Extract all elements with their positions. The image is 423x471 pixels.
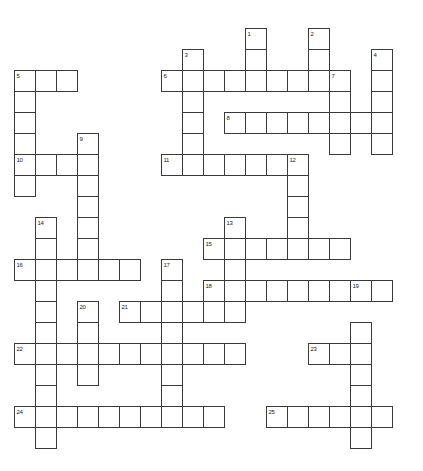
crossword-cell[interactable] [266,280,288,302]
crossword-cell[interactable] [182,154,204,176]
crossword-cell[interactable] [35,427,57,449]
crossword-cell[interactable] [35,385,57,407]
crossword-cell[interactable] [287,175,309,197]
crossword-cell[interactable] [35,70,57,92]
crossword-cell[interactable] [56,259,78,281]
crossword-cell[interactable] [245,154,267,176]
crossword-cell[interactable] [161,406,183,428]
crossword-cell[interactable] [119,343,141,365]
crossword-cell[interactable] [77,343,99,365]
crossword-cell[interactable] [245,70,267,92]
crossword-cell[interactable] [350,322,372,344]
crossword-cell[interactable] [329,133,351,155]
crossword-cell[interactable] [182,112,204,134]
crossword-cell[interactable] [350,364,372,386]
crossword-cell[interactable] [350,112,372,134]
crossword-cell[interactable] [371,91,393,113]
crossword-cell[interactable] [266,112,288,134]
crossword-cell[interactable] [329,343,351,365]
crossword-cell[interactable] [287,112,309,134]
crossword-cell[interactable] [203,406,225,428]
crossword-cell[interactable] [371,70,393,92]
crossword-cell[interactable] [182,301,204,323]
crossword-cell[interactable] [329,406,351,428]
crossword-cell[interactable] [77,238,99,260]
crossword-cell[interactable] [287,406,309,428]
crossword-cell[interactable] [35,280,57,302]
crossword-cell[interactable] [203,343,225,365]
crossword-cell[interactable] [329,112,351,134]
crossword-cell[interactable] [350,343,372,365]
crossword-cell[interactable] [98,343,120,365]
crossword-cell[interactable] [35,322,57,344]
crossword-cell[interactable] [161,280,183,302]
crossword-cell[interactable] [140,343,162,365]
crossword-cell[interactable] [329,91,351,113]
crossword-cell[interactable] [14,175,36,197]
crossword-cell[interactable] [224,154,246,176]
crossword-cell[interactable] [350,427,372,449]
crossword-cell[interactable] [329,280,351,302]
crossword-cell[interactable] [224,70,246,92]
crossword-cell[interactable] [308,280,330,302]
crossword-cell[interactable] [35,343,57,365]
crossword-cell[interactable] [161,301,183,323]
crossword-cell[interactable] [245,280,267,302]
crossword-cell[interactable] [203,70,225,92]
crossword-cell[interactable] [329,238,351,260]
crossword-cell[interactable] [35,406,57,428]
crossword-cell[interactable] [224,280,246,302]
crossword-cell[interactable] [203,301,225,323]
crossword-cell[interactable] [245,238,267,260]
crossword-cell[interactable] [14,91,36,113]
crossword-cell[interactable] [140,406,162,428]
crossword-cell[interactable] [266,70,288,92]
crossword-cell[interactable] [224,259,246,281]
crossword-cell[interactable] [35,238,57,260]
crossword-cell[interactable] [224,343,246,365]
crossword-cell[interactable] [287,280,309,302]
crossword-cell[interactable] [35,154,57,176]
crossword-cell[interactable] [182,70,204,92]
crossword-cell[interactable] [119,259,141,281]
crossword-cell[interactable] [203,154,225,176]
crossword-cell[interactable] [77,259,99,281]
crossword-cell[interactable] [140,301,162,323]
crossword-cell[interactable] [308,238,330,260]
crossword-cell[interactable] [350,406,372,428]
crossword-cell[interactable] [98,406,120,428]
crossword-cell[interactable] [14,133,36,155]
crossword-cell[interactable] [182,91,204,113]
crossword-cell[interactable] [98,259,120,281]
crossword-cell[interactable] [287,70,309,92]
crossword-cell[interactable] [35,259,57,281]
crossword-cell[interactable] [182,133,204,155]
crossword-cell[interactable] [35,301,57,323]
crossword-cell[interactable] [161,385,183,407]
crossword-cell[interactable] [161,343,183,365]
crossword-cell[interactable] [224,301,246,323]
crossword-cell[interactable] [308,49,330,71]
crossword-cell[interactable] [77,217,99,239]
crossword-cell[interactable] [245,112,267,134]
crossword-cell[interactable] [350,385,372,407]
crossword-cell[interactable] [56,406,78,428]
crossword-cell[interactable] [371,133,393,155]
crossword-cell[interactable] [35,364,57,386]
crossword-cell[interactable] [77,196,99,218]
crossword-cell[interactable] [287,217,309,239]
crossword-cell[interactable] [308,406,330,428]
crossword-cell[interactable] [245,49,267,71]
crossword-cell[interactable] [371,406,393,428]
crossword-cell[interactable] [77,406,99,428]
crossword-cell[interactable] [287,238,309,260]
crossword-cell[interactable] [14,112,36,134]
crossword-cell[interactable] [371,280,393,302]
crossword-cell[interactable] [182,406,204,428]
crossword-cell[interactable] [266,238,288,260]
crossword-cell[interactable] [287,196,309,218]
crossword-cell[interactable] [161,364,183,386]
crossword-cell[interactable] [56,343,78,365]
crossword-cell[interactable] [308,112,330,134]
crossword-cell[interactable] [119,406,141,428]
